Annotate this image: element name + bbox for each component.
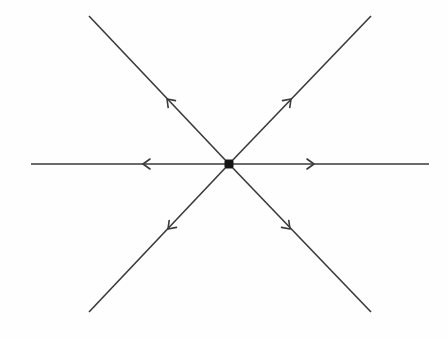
trajectory-lower-right	[229, 164, 371, 312]
trajectory-upper-right	[229, 16, 371, 164]
phase-portrait-diagram	[0, 0, 448, 339]
phase-portrait-svg	[0, 0, 448, 339]
trajectory-upper-left	[89, 16, 229, 164]
arrowhead-lower-right-icon	[282, 220, 290, 229]
trajectory-lower-left	[89, 164, 229, 312]
equilibrium-node	[225, 160, 234, 169]
